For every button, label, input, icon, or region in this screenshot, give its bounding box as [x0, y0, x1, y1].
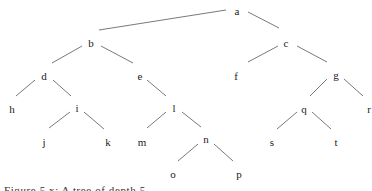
tree-node-d: d — [41, 70, 47, 82]
tree-node-i: i — [75, 102, 78, 114]
edge-l-n — [182, 112, 201, 127]
edge-l-m — [147, 112, 166, 128]
tree-node-f: f — [234, 70, 238, 82]
tree-node-r: r — [367, 103, 371, 115]
tree-nodes: abcdefghilqrjkmnstop — [9, 5, 371, 180]
tree-diagram: abcdefghilqrjkmnstop — [0, 0, 372, 191]
tree-node-m: m — [138, 136, 147, 148]
tree-node-b: b — [88, 37, 94, 49]
tree-node-e: e — [138, 70, 143, 82]
edge-a-b — [99, 10, 226, 30]
tree-node-g: g — [333, 69, 339, 81]
figure-caption: Figure 5.x: A tree of depth 5 ... — [4, 184, 159, 191]
tree-node-l: l — [172, 102, 175, 114]
edge-a-c — [248, 12, 279, 28]
edge-c-g — [297, 46, 327, 62]
edge-g-q — [310, 79, 327, 96]
tree-node-a: a — [235, 5, 240, 17]
tree-node-h: h — [9, 103, 15, 115]
edge-i-k — [84, 112, 104, 129]
edge-i-j — [49, 112, 70, 128]
tree-node-q: q — [301, 103, 307, 115]
tree-node-o: o — [170, 168, 176, 180]
edge-n-o — [178, 144, 198, 161]
edge-d-i — [53, 80, 71, 96]
tree-node-j: j — [41, 136, 45, 148]
tree-node-p: p — [236, 168, 242, 180]
edge-n-p — [214, 144, 233, 161]
tree-node-n: n — [203, 133, 209, 145]
edge-g-r — [344, 79, 363, 96]
edge-q-t — [312, 112, 331, 129]
tree-node-s: s — [270, 136, 274, 148]
edge-b-d — [52, 46, 82, 63]
tree-node-c: c — [284, 37, 289, 49]
tree-node-k: k — [105, 136, 111, 148]
edge-e-l — [147, 80, 166, 96]
edge-q-s — [277, 112, 297, 129]
edge-c-f — [248, 46, 278, 62]
tree-node-t: t — [334, 136, 337, 148]
tree-edges — [16, 10, 363, 161]
edge-d-h — [16, 80, 35, 96]
edge-b-e — [101, 46, 133, 63]
